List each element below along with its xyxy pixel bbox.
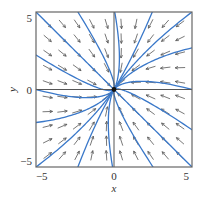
trajectory-curve (114, 81, 203, 127)
field-arrow (147, 50, 155, 56)
trajectory-curve (0, 90, 114, 206)
y-tick-label: 0 (27, 84, 33, 96)
x-tick-label: −5 (36, 170, 48, 182)
y-tick-label: −5 (20, 155, 32, 167)
field-arrow (162, 20, 169, 27)
solution-trajectories (0, 0, 203, 206)
field-arrow (176, 138, 184, 145)
y-tick-label: 5 (27, 12, 33, 24)
trajectory-curve (114, 39, 203, 90)
equilibrium-point (112, 87, 117, 92)
trajectory-curve (114, 90, 203, 207)
field-arrow (44, 35, 52, 41)
x-tick-label: 0 (111, 170, 117, 182)
field-arrow (74, 35, 80, 43)
x-tick-label: 5 (183, 170, 189, 182)
phase-portrait-chart: −505 −505 x y (0, 0, 203, 206)
trajectory-curve (7, 0, 114, 90)
x-axis-label: x (111, 182, 117, 194)
field-arrow (148, 34, 154, 42)
y-tick-labels: −505 (20, 12, 32, 168)
field-arrow (162, 123, 170, 129)
field-arrow (73, 123, 81, 129)
y-axis-label: y (6, 87, 18, 93)
trajectory-curve (92, 0, 119, 89)
x-tick-labels: −505 (36, 170, 190, 182)
field-arrow (59, 152, 66, 159)
field-arrow (148, 137, 154, 145)
field-arrow (58, 50, 66, 56)
trajectory-curve (114, 90, 203, 207)
field-arrow (59, 20, 66, 28)
trajectory-curve (54, 90, 114, 206)
field-arrow (74, 137, 80, 145)
trajectory-curve (114, 89, 203, 206)
field-arrow (162, 152, 168, 160)
